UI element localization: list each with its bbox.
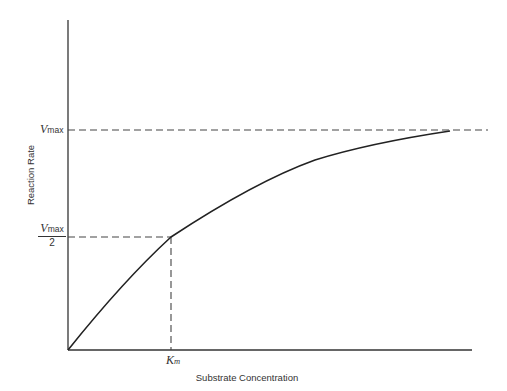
half-vmax-denominator: 2 [38, 237, 66, 249]
km-label-main: K [166, 353, 174, 367]
chart-canvas [0, 0, 507, 391]
half-vmax-label: Vmax 2 [38, 222, 66, 249]
vmax-label-sub: max [47, 125, 63, 135]
km-label: Km [166, 353, 180, 368]
michaelis-menten-curve [68, 131, 450, 350]
y-axis-label: Reaction Rate [25, 145, 36, 205]
half-vmax-numerator: Vmax [38, 222, 66, 237]
half-vmax-num-main: V [40, 221, 47, 235]
x-axis-label: Substrate Concentration [196, 372, 298, 383]
km-label-sub: m [174, 356, 180, 366]
vmax-label: Vmax [40, 122, 63, 137]
half-vmax-num-sub: max [48, 224, 64, 234]
